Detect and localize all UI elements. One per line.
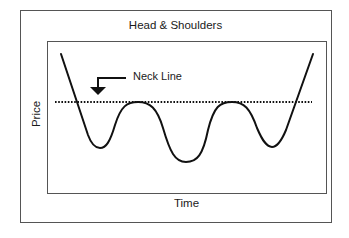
neckline-arrow-icon (90, 78, 126, 95)
price-line (61, 54, 313, 162)
y-axis-label: Price (30, 101, 42, 127)
plot-area (48, 42, 327, 194)
head-and-shoulders-figure: Head & Shoulders Neck Line Time Price (0, 0, 349, 238)
chart-title: Head & Shoulders (20, 19, 331, 31)
neckline-annotation: Neck Line (133, 70, 182, 82)
x-axis-label: Time (47, 197, 326, 209)
outer-frame (21, 11, 332, 223)
